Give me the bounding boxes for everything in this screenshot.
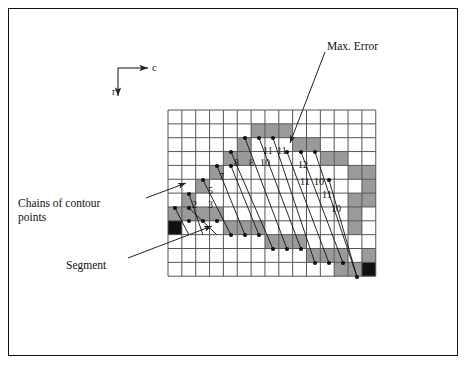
contour-point-dot xyxy=(341,261,345,265)
contour-point-dot xyxy=(229,150,233,154)
contour-point-dot xyxy=(313,150,317,154)
cell-number: 11 xyxy=(263,146,273,156)
axis-label-c: c xyxy=(152,62,157,73)
cell-number: 8 xyxy=(234,158,239,168)
grid-cell-gray xyxy=(334,249,348,263)
grid-cell-gray xyxy=(320,249,334,263)
grid-cell-gray xyxy=(362,179,376,193)
contour-point-dot xyxy=(187,219,191,223)
chains-label-line2: points xyxy=(18,210,158,224)
grid-cell-gray xyxy=(251,124,265,138)
grid-cell-gray xyxy=(348,165,362,179)
grid-cell-gray xyxy=(348,221,362,235)
contour-point-dot xyxy=(243,136,247,140)
axis-label-r: r xyxy=(112,86,116,97)
grid-cell-gray xyxy=(348,193,362,207)
leader-line-max-error xyxy=(290,52,325,143)
contour-point-dot xyxy=(187,206,191,210)
contour-point-dot xyxy=(215,219,219,223)
max-error-label: Max. Error xyxy=(327,40,378,52)
grid-cell-gray xyxy=(293,138,307,152)
contour-point-dot xyxy=(299,247,303,251)
contour-point-dot xyxy=(229,233,233,237)
grid-cell-gray xyxy=(307,249,321,263)
grid-cell-gray xyxy=(265,124,279,138)
chains-of-contour-points-label: Chains of contour points xyxy=(18,196,158,224)
contour-point-dot xyxy=(229,164,233,168)
grid-cell-gray xyxy=(307,138,321,152)
cell-number: 10 xyxy=(314,177,324,187)
contour-point-dot xyxy=(285,247,289,251)
grid-cell-black xyxy=(168,221,182,235)
grid-cell-gray xyxy=(334,152,348,166)
grid-cell-gray xyxy=(362,165,376,179)
contour-point-dot xyxy=(257,136,261,140)
grid-cell-gray xyxy=(279,124,293,138)
contour-point-dot xyxy=(215,164,219,168)
contour-point-dot xyxy=(327,261,331,265)
contour-point-dot xyxy=(299,150,303,154)
contour-point-dot xyxy=(243,233,247,237)
grid-cell-gray xyxy=(334,262,348,276)
contour-point-dot xyxy=(257,233,261,237)
contour-point-dot xyxy=(271,247,275,251)
grid-cell-gray xyxy=(223,221,237,235)
contour-point-dot xyxy=(355,275,359,279)
segment-label: Segment xyxy=(66,259,106,271)
grid-cell-gray xyxy=(320,152,334,166)
contour-point-dot xyxy=(201,219,205,223)
cell-number: 8 xyxy=(249,158,254,168)
grid-cell-gray xyxy=(348,207,362,221)
cell-number: 7 xyxy=(219,172,224,182)
contour-point-dot xyxy=(201,178,205,182)
axis-arrows xyxy=(118,68,148,96)
cell-number: 3 xyxy=(208,200,213,210)
contour-point-dot xyxy=(271,136,275,140)
contour-point-dot xyxy=(187,192,191,196)
cell-number: 5 xyxy=(208,186,213,196)
figure-artwork xyxy=(0,0,468,366)
contour-point-dot xyxy=(327,178,331,182)
grid-cell-black xyxy=(362,262,376,276)
figure-canvas: Max. Error Chains of contour points Segm… xyxy=(0,0,468,366)
cell-number: 10 xyxy=(331,204,341,214)
grid-cell-gray xyxy=(362,193,376,207)
cell-number: 11 xyxy=(277,146,287,156)
cell-number: 10 xyxy=(260,158,270,168)
contour-point-dot xyxy=(173,206,177,210)
cell-number: 11 xyxy=(322,190,332,200)
chains-label-line1: Chains of contour xyxy=(18,196,158,210)
cell-number: 12 xyxy=(298,160,308,170)
contour-point-dot xyxy=(313,261,317,265)
cell-number: 11 xyxy=(300,177,310,187)
cell-number: 2 xyxy=(192,200,197,210)
grid-cell-gray xyxy=(362,249,376,263)
